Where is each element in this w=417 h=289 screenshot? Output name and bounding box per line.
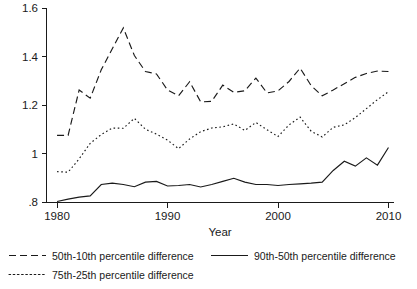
x-axis-title: Year xyxy=(208,226,231,238)
y-tick-label: 1.4 xyxy=(22,51,39,63)
x-tick-label: 2010 xyxy=(376,210,402,222)
y-tick-label: 1.2 xyxy=(22,99,38,111)
legend-label-90th-50th: 90th-50th percentile difference xyxy=(254,250,396,262)
x-tick-label: 1980 xyxy=(44,210,70,222)
x-tick-label: 2000 xyxy=(265,210,291,222)
chart-background xyxy=(0,0,417,289)
y-tick-label: .8 xyxy=(28,196,38,208)
y-tick-label: 1 xyxy=(32,148,38,160)
income-inequality-line-chart: .811.21.41.6 1980199020002010 Year 50th-… xyxy=(0,0,417,289)
legend-label-75th-25th: 75th-25th percentile difference xyxy=(52,269,194,281)
x-tick-label: 1990 xyxy=(155,210,181,222)
y-tick-label: 1.6 xyxy=(22,2,38,14)
legend-label-50th-10th: 50th-10th percentile difference xyxy=(52,250,194,262)
